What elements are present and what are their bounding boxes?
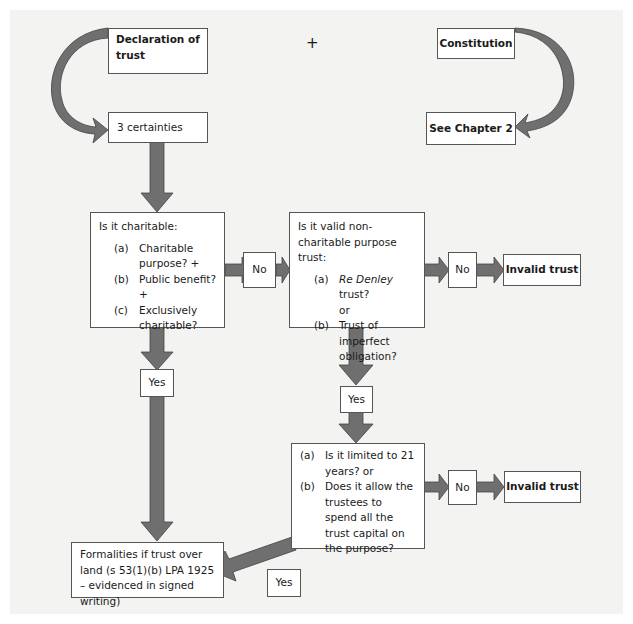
down-arrow-yes-to-formalities bbox=[141, 396, 173, 541]
limits-item-b: (b)Does it allow the trustees to spend a… bbox=[300, 479, 416, 557]
non-charitable-question-box: Is it valid non-charitable purpose trust… bbox=[289, 212, 425, 328]
right-arrow-limits-to-no bbox=[424, 474, 449, 500]
plus-sign: + bbox=[306, 34, 319, 52]
invalid-trust-box-2: Invalid trust bbox=[504, 471, 581, 503]
declaration-of-trust-box: Declaration of trust bbox=[108, 28, 208, 74]
right-arrow-no-to-noncharitable bbox=[276, 257, 290, 283]
charitable-item-a: (a)Charitable purpose? + bbox=[114, 241, 216, 272]
non-charitable-title: Is it valid non-charitable purpose trust… bbox=[298, 219, 416, 266]
formalities-label: Formalities if trust over land (s 53(1)(… bbox=[80, 548, 214, 607]
no-label-2: No bbox=[455, 262, 469, 278]
no-label-3: No bbox=[455, 480, 469, 496]
invalid-trust-label-2: Invalid trust bbox=[506, 479, 579, 495]
non-charitable-or: or bbox=[314, 303, 416, 319]
see-chapter-2-box: See Chapter 2 bbox=[426, 112, 516, 145]
constitution-label: Constitution bbox=[439, 36, 512, 52]
see-chapter-label: See Chapter 2 bbox=[429, 121, 513, 137]
constitution-box: Constitution bbox=[437, 28, 515, 59]
right-arrow-no-to-invalid bbox=[476, 257, 504, 283]
yes-box-1: Yes bbox=[140, 369, 174, 397]
yes-label-1: Yes bbox=[149, 375, 166, 391]
charitable-title: Is it charitable: bbox=[99, 219, 216, 235]
limits-item-a: (a)Is it limited to 21 years? or bbox=[300, 448, 416, 479]
invalid-trust-label-1: Invalid trust bbox=[506, 262, 579, 278]
yes-label-2: Yes bbox=[348, 392, 365, 408]
no-label-1: No bbox=[252, 262, 266, 278]
yes-box-2: Yes bbox=[340, 386, 373, 413]
down-arrow-yes-to-limits bbox=[339, 412, 373, 443]
charitable-item-c: (c)Exclusively charitable? bbox=[114, 303, 216, 334]
invalid-trust-box-1: Invalid trust bbox=[503, 254, 581, 286]
yes-label-3: Yes bbox=[276, 575, 293, 591]
yes-box-3: Yes bbox=[267, 569, 301, 597]
limits-question-box: (a)Is it limited to 21 years? or (b)Does… bbox=[291, 443, 425, 549]
declaration-label: Declaration of trust bbox=[116, 33, 200, 61]
no-box-1: No bbox=[243, 252, 276, 288]
down-arrow-certainties-to-charitable bbox=[141, 142, 173, 212]
charitable-question-box: Is it charitable: (a)Charitable purpose?… bbox=[90, 212, 225, 328]
non-charitable-item-a: (a)Re Denley trust? bbox=[314, 272, 416, 303]
curved-arrow-constitution-to-chapter bbox=[515, 28, 574, 138]
curved-arrow-declaration-to-certainties bbox=[51, 28, 108, 143]
no-box-2: No bbox=[448, 252, 477, 288]
formalities-box: Formalities if trust over land (s 53(1)(… bbox=[71, 542, 224, 598]
non-charitable-item-b: (b)Trust of imperfect obligation? bbox=[314, 318, 416, 365]
certainties-label: 3 certainties bbox=[117, 121, 183, 133]
charitable-item-b: (b)Public benefit? + bbox=[114, 272, 216, 303]
no-box-3: No bbox=[448, 470, 477, 505]
right-arrow-no-to-invalid-2 bbox=[476, 474, 504, 500]
certainties-box: 3 certainties bbox=[108, 112, 208, 143]
right-arrow-noncharitable-to-no bbox=[424, 257, 449, 283]
